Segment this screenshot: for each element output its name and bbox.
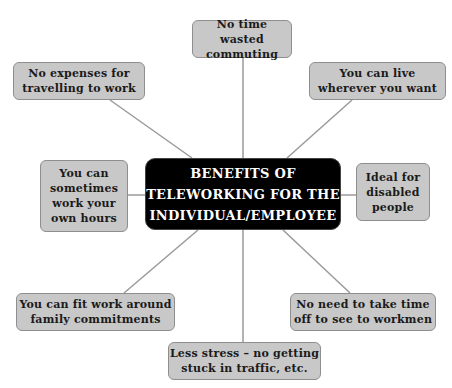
benefit-text-line: You can <box>50 166 118 181</box>
benefit-node-stress: Less stress – no getting stuck in traffi… <box>168 342 321 380</box>
benefit-text-line: No need to take time <box>294 297 432 312</box>
central-topic-line: TELEWORKING FOR THE <box>146 187 340 202</box>
central-topic-line: INDIVIDUAL/EMPLOYEE <box>149 208 336 223</box>
connector-expenses <box>110 100 192 158</box>
benefit-text-line: You can live <box>318 66 437 81</box>
benefit-text-line: wherever you want <box>318 81 437 96</box>
benefit-node-family: You can fit work around family commitmen… <box>16 293 175 331</box>
connector-family <box>124 230 198 293</box>
benefit-text-line: commuting <box>193 47 291 62</box>
benefit-text-line: Ideal for <box>366 170 421 185</box>
connector-live <box>287 100 352 158</box>
benefit-node-commuting: No time wasted commuting <box>192 20 292 58</box>
benefit-text-line: stuck in traffic, etc. <box>170 361 319 376</box>
benefit-text-line: sometimes <box>50 181 118 196</box>
benefit-node-live-anywhere: You can live wherever you want <box>309 62 446 100</box>
benefit-text-line: Less stress – no getting <box>170 346 319 361</box>
benefit-node-expenses: No expenses for travelling to work <box>13 62 145 100</box>
benefit-text-line: No expenses for <box>22 66 136 81</box>
benefit-text-line: disabled <box>366 185 421 200</box>
central-topic-line: BENEFITS OF <box>190 166 295 181</box>
benefit-text-line: people <box>366 200 421 215</box>
benefit-node-workmen: No need to take time off to see to workm… <box>290 293 436 331</box>
central-topic-box: BENEFITS OF TELEWORKING FOR THE INDIVIDU… <box>145 158 341 230</box>
benefit-text-line: travelling to work <box>22 81 136 96</box>
benefit-text-line: You can fit work around <box>19 297 171 312</box>
benefit-text-line: own hours <box>50 211 118 226</box>
mind-map-canvas: BENEFITS OF TELEWORKING FOR THE INDIVIDU… <box>0 0 452 388</box>
benefit-text-line: family commitments <box>19 312 171 327</box>
benefit-node-disabled: Ideal for disabled people <box>356 163 430 221</box>
benefit-text-line: off to see to workmen <box>294 312 432 327</box>
connector-workmen <box>283 230 350 293</box>
benefit-node-own-hours: You can sometimes work your own hours <box>40 160 128 232</box>
benefit-text-line: work your <box>50 196 118 211</box>
benefit-text-line: No time wasted <box>193 17 291 47</box>
